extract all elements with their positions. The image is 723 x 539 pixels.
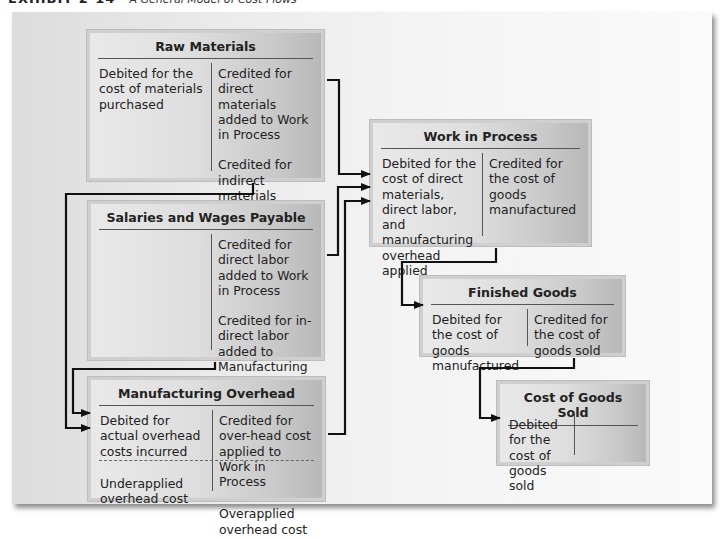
flow-indirect-materials [66, 183, 253, 428]
flow-indirect-labor [73, 362, 215, 413]
flow-direct-labor [327, 187, 370, 255]
flow-goods-sold [480, 358, 574, 418]
flow-direct-materials [327, 80, 370, 174]
flow-overhead-applied [328, 201, 370, 434]
flow-goods-manufactured [402, 248, 496, 305]
flow-connectors [0, 0, 723, 539]
